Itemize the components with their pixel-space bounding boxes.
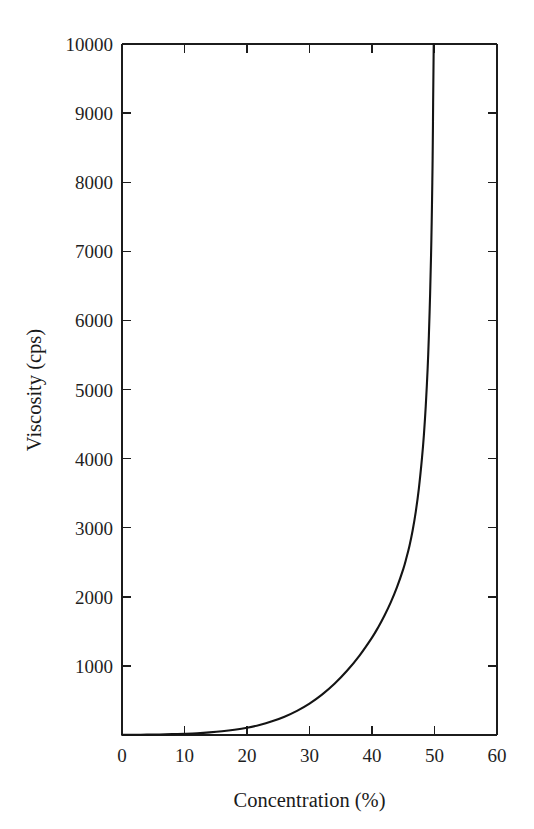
x-axis-tick-labels: 0 10 20 30 40 50 60 [117,745,506,766]
y-tick-label: 9000 [75,103,113,124]
y-tick-label: 4000 [75,449,113,470]
x-tick-label: 10 [175,745,194,766]
y-axis-title: Viscosity (cps) [23,329,46,451]
x-tick-label: 40 [363,745,382,766]
x-tick-label: 60 [488,745,507,766]
y-tick-label: 5000 [75,380,113,401]
y-tick-label: 2000 [75,587,113,608]
x-tick-label: 0 [117,745,127,766]
y-tick-label: 8000 [75,172,113,193]
chart-figure: 10000 9000 8000 7000 6000 5000 4000 3000… [0,0,534,829]
y-tick-label: 6000 [75,310,113,331]
x-axis-title: Concentration (%) [234,789,386,812]
y-axis-tick-labels: 10000 9000 8000 7000 6000 5000 4000 3000… [66,34,114,677]
x-tick-label: 20 [238,745,257,766]
y-tick-label: 1000 [75,656,113,677]
y-tick-label: 10000 [66,34,114,55]
viscosity-concentration-chart: 10000 9000 8000 7000 6000 5000 4000 3000… [0,0,534,829]
y-tick-label: 3000 [75,518,113,539]
x-tick-label: 50 [425,745,444,766]
x-tick-label: 30 [300,745,319,766]
y-tick-label: 7000 [75,241,113,262]
plot-background [122,44,497,735]
